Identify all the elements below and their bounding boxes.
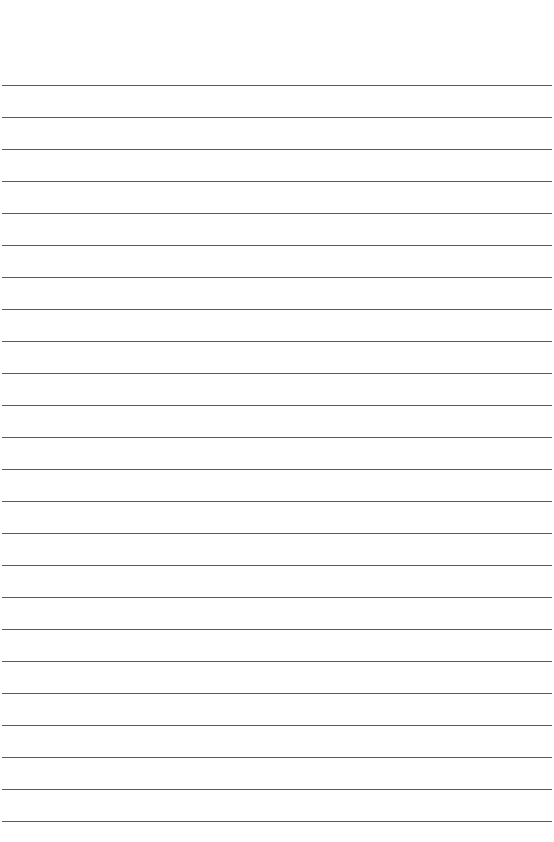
ruled-line	[2, 757, 552, 758]
ruled-line	[2, 629, 552, 630]
ruled-line	[2, 277, 552, 278]
ruled-line	[2, 725, 552, 726]
ruled-line	[2, 533, 552, 534]
ruled-line	[2, 213, 552, 214]
ruled-line	[2, 373, 552, 374]
ruled-line	[2, 469, 552, 470]
ruled-line	[2, 117, 552, 118]
ruled-line	[2, 661, 552, 662]
ruled-line	[2, 309, 552, 310]
ruled-line	[2, 789, 552, 790]
ruled-line	[2, 405, 552, 406]
ruled-line	[2, 85, 552, 86]
ruled-line	[2, 821, 552, 822]
ruled-line	[2, 501, 552, 502]
ruled-line	[2, 565, 552, 566]
ruled-line	[2, 245, 552, 246]
ruled-line	[2, 149, 552, 150]
ruled-line	[2, 437, 552, 438]
ruled-line	[2, 341, 552, 342]
ruled-line	[2, 181, 552, 182]
ruled-line	[2, 597, 552, 598]
ruled-line	[2, 693, 552, 694]
